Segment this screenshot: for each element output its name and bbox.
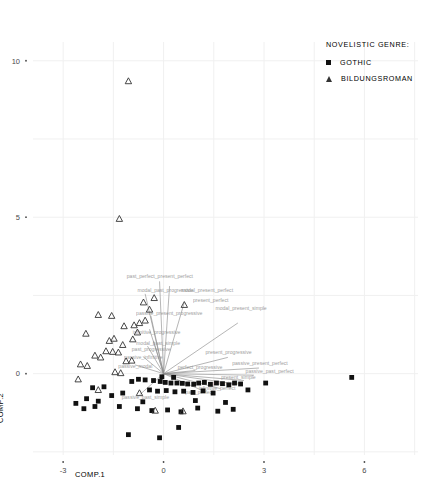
- data-point-gothic: [164, 388, 169, 393]
- data-point-gothic: [246, 388, 251, 393]
- data-point-gothic: [220, 381, 225, 386]
- loading-vector-label: perfect_progressive: [178, 364, 223, 370]
- data-point-gothic: [158, 379, 163, 384]
- data-point-gothic: [208, 382, 213, 387]
- data-point-gothic: [93, 404, 98, 409]
- data-point-gothic: [73, 401, 78, 406]
- data-point-gothic: [175, 381, 180, 386]
- x-tick-mark: [62, 461, 64, 463]
- data-point-gothic: [163, 380, 168, 385]
- data-point-gothic: [109, 393, 114, 398]
- data-point-gothic: [117, 404, 122, 409]
- data-point-gothic: [185, 382, 190, 387]
- data-point-gothic: [196, 381, 201, 386]
- loading-vector-label: modal_present_simple: [215, 305, 266, 311]
- loading-vector-label: passive_past_simple: [122, 394, 169, 400]
- x-tick-label: -3: [60, 466, 67, 475]
- data-point-gothic: [191, 382, 196, 387]
- data-point-gothic: [90, 385, 95, 390]
- loading-vector-label: passive_present_progressive: [136, 310, 202, 316]
- data-point-gothic: [226, 383, 231, 388]
- y-tick-mark: [25, 216, 27, 218]
- data-point-gothic: [238, 382, 243, 387]
- chart-background: [0, 0, 430, 498]
- data-point-gothic: [193, 398, 198, 403]
- data-point-gothic: [135, 406, 140, 411]
- data-point-gothic: [84, 396, 89, 401]
- loading-vector-label: passive_present_perfect: [232, 360, 288, 366]
- data-point-gothic: [215, 409, 220, 414]
- data-point-gothic: [349, 375, 354, 380]
- chart-canvas: past_perfect_present_perfectmodal_presen…: [0, 0, 430, 498]
- data-point-gothic: [96, 399, 101, 404]
- y-tick-label: 0: [16, 369, 20, 378]
- data-point-gothic: [195, 406, 200, 411]
- data-point-gothic: [231, 407, 236, 412]
- data-point-gothic: [263, 381, 268, 386]
- y-tick-mark: [25, 373, 27, 375]
- loading-vector-label: passive_infinitive: [124, 354, 163, 360]
- data-point-gothic: [155, 389, 160, 394]
- loading-vector-label: past_progressive: [132, 346, 171, 352]
- x-tick-label: 0: [161, 466, 165, 475]
- data-point-gothic: [223, 400, 228, 405]
- loading-vector-label: passive_past_perfect: [246, 368, 295, 374]
- loading-vector-label: modal_past_progressive: [137, 287, 193, 293]
- data-point-gothic: [143, 378, 148, 383]
- data-point-gothic: [165, 408, 170, 413]
- data-point-gothic: [151, 378, 156, 383]
- x-tick-label: 6: [362, 466, 366, 475]
- data-point-gothic: [191, 390, 196, 395]
- data-point-gothic: [181, 389, 186, 394]
- y-tick-mark: [25, 60, 27, 62]
- loading-vector-label: modal_past_simple: [136, 340, 180, 346]
- data-point-gothic: [173, 389, 178, 394]
- y-tick-label: 10: [12, 57, 20, 66]
- loading-vector-label: present_perfect: [193, 297, 229, 303]
- loading-vector-label: past_perfect_present_perfect: [127, 273, 194, 279]
- data-point-gothic: [120, 391, 125, 396]
- data-point-gothic: [202, 380, 207, 385]
- x-tick-label: 3: [262, 466, 266, 475]
- data-point-gothic: [180, 381, 185, 386]
- data-point-gothic: [157, 435, 162, 440]
- data-point-gothic: [129, 379, 134, 384]
- data-point-gothic: [147, 388, 152, 393]
- data-point-gothic: [232, 381, 237, 386]
- x-tick-mark: [163, 461, 165, 463]
- data-point-gothic: [171, 375, 176, 380]
- data-point-gothic: [201, 388, 206, 393]
- data-point-gothic: [214, 381, 219, 386]
- data-point-gothic: [126, 432, 131, 437]
- data-point-gothic: [169, 381, 174, 386]
- data-point-gothic: [140, 399, 145, 404]
- loading-vector-label: present_progressive: [205, 349, 251, 355]
- data-point-gothic: [159, 374, 164, 379]
- data-point-gothic: [136, 377, 141, 382]
- x-tick-mark: [364, 461, 366, 463]
- x-tick-mark: [263, 461, 265, 463]
- data-point-gothic: [176, 425, 181, 430]
- pca-biplot: past_perfect_present_perfectmodal_presen…: [0, 0, 430, 498]
- data-point-gothic: [211, 391, 216, 396]
- data-point-gothic: [81, 406, 86, 411]
- data-point-gothic: [102, 384, 107, 389]
- loading-vector-label: past_perfect: [185, 389, 214, 395]
- y-tick-label: 5: [16, 213, 20, 222]
